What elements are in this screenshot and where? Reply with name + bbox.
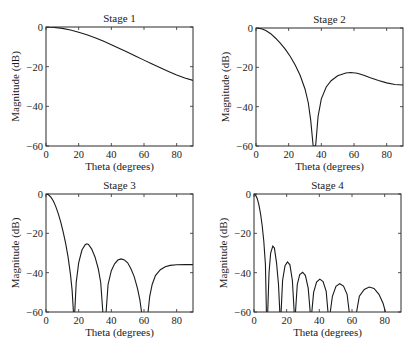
x-tick-label: 20	[73, 149, 84, 160]
chart-title: Stage 3	[103, 179, 136, 191]
x-tick-label: 40	[106, 315, 117, 326]
figure: Stage 10204060800−20−40−60Theta (degrees…	[0, 0, 413, 347]
subplot-stage-4: Stage 40204060800−20−40−60Theta (degrees…	[217, 179, 401, 339]
subplot-stage-1: Stage 10204060800−20−40−60Theta (degrees…	[9, 12, 193, 173]
axes-box	[256, 28, 403, 146]
subplot-stage-2: Stage 20204060800−20−40−60Theta (degrees…	[219, 13, 403, 173]
x-tick-label: 0	[251, 315, 256, 326]
x-tick-label: 0	[43, 149, 48, 160]
data-line	[46, 27, 193, 80]
x-axis-label: Theta (degrees)	[85, 326, 154, 339]
y-tick-label: −60	[235, 307, 251, 318]
x-tick-label: 80	[381, 149, 392, 160]
x-axis-label: Theta (degrees)	[85, 160, 154, 173]
x-tick-label: 0	[43, 315, 48, 326]
x-tick-label: 60	[347, 315, 358, 326]
y-tick-label: −20	[27, 228, 43, 239]
chart-title: Stage 4	[311, 179, 344, 191]
x-axis-label: Theta (degrees)	[293, 326, 362, 339]
y-tick-label: −20	[237, 62, 253, 73]
x-tick-label: 80	[171, 315, 182, 326]
x-tick-label: 60	[139, 315, 150, 326]
y-tick-label: 0	[38, 189, 43, 200]
y-axis-label: Magnitude (dB)	[219, 51, 232, 122]
y-tick-label: 0	[248, 23, 253, 34]
y-tick-label: −20	[27, 62, 43, 73]
y-tick-label: −40	[27, 101, 43, 112]
axes-box	[46, 194, 193, 312]
x-tick-label: 60	[349, 149, 360, 160]
y-axis-label: Magnitude (dB)	[217, 217, 230, 288]
data-line	[254, 194, 385, 312]
x-tick-label: 40	[316, 149, 327, 160]
y-tick-label: 0	[246, 189, 251, 200]
y-tick-label: −40	[237, 102, 253, 113]
data-line	[256, 28, 403, 146]
x-tick-label: 20	[281, 315, 292, 326]
x-tick-label: 40	[106, 149, 117, 160]
x-axis-label: Theta (degrees)	[295, 160, 364, 173]
y-axis-label: Magnitude (dB)	[9, 217, 22, 288]
y-tick-label: −40	[27, 268, 43, 279]
x-tick-label: 0	[253, 149, 258, 160]
subplot-stage-3: Stage 30204060800−20−40−60Theta (degrees…	[9, 179, 193, 339]
chart-title: Stage 1	[103, 12, 136, 24]
y-tick-label: −40	[235, 268, 251, 279]
axes-box	[46, 27, 193, 146]
x-tick-label: 20	[73, 315, 84, 326]
x-tick-label: 20	[283, 149, 294, 160]
y-tick-label: −20	[235, 228, 251, 239]
x-tick-label: 80	[379, 315, 390, 326]
y-tick-label: 0	[38, 22, 43, 33]
chart-title: Stage 2	[313, 13, 346, 25]
y-tick-label: −60	[27, 307, 43, 318]
y-tick-label: −60	[27, 141, 43, 152]
x-tick-label: 80	[171, 149, 182, 160]
data-line	[46, 194, 193, 312]
y-tick-label: −60	[237, 141, 253, 152]
x-tick-label: 60	[139, 149, 150, 160]
x-tick-label: 40	[314, 315, 325, 326]
y-axis-label: Magnitude (dB)	[9, 51, 22, 122]
